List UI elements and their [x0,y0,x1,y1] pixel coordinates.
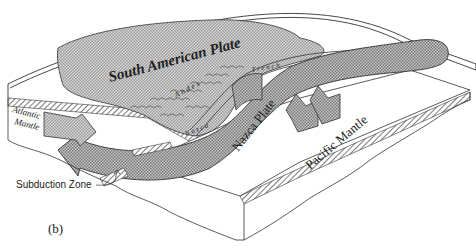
plate-tectonics-block-diagram: South American Plate A n d e s T r e n c… [0,0,476,248]
panel-label: (b) [48,221,63,236]
label-subduction-zone: Subduction Zone [16,179,92,190]
diagram-figure: South American Plate A n d e s T r e n c… [0,0,476,248]
